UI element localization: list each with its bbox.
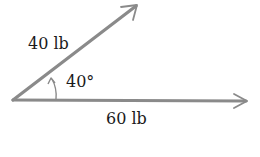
horizontal-force-label: 60 lb — [106, 111, 147, 127]
upper-force-label: 40 lb — [28, 36, 69, 52]
horizontal-force-vector — [13, 94, 247, 108]
force-diagram: 40 lb 40° 60 lb — [0, 0, 260, 157]
diagram-svg — [0, 0, 260, 157]
angle-label: 40° — [66, 74, 94, 90]
angle-arc — [48, 78, 56, 99]
